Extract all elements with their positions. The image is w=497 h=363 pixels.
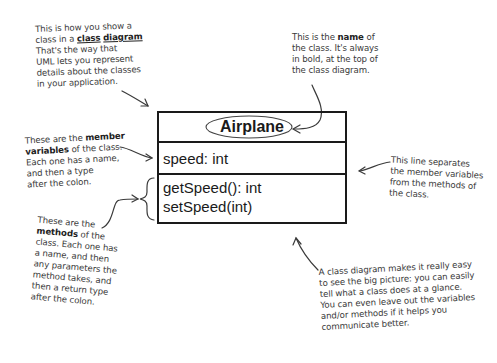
methods-section: getSpeed(): int setSpeed(int) bbox=[159, 175, 345, 222]
note-text: class in a bbox=[35, 33, 77, 44]
note-big-picture: A class diagram makes it really easy to … bbox=[318, 259, 477, 333]
arrow-class-diagram bbox=[122, 91, 148, 106]
attribute-row: speed: int bbox=[163, 150, 228, 167]
note-text: in your application. bbox=[37, 76, 118, 89]
method-row: getSpeed(): int bbox=[163, 179, 261, 196]
note-emphasis: member bbox=[85, 130, 125, 142]
uml-class-box: Airplane speed: int getSpeed(): int setS… bbox=[157, 111, 347, 224]
note-class-diagram: This is how you show a class in a class … bbox=[35, 20, 144, 90]
note-emphasis: class bbox=[77, 33, 101, 44]
note-member-variables: These are the member variables of the cl… bbox=[25, 130, 128, 190]
note-class-name: This is the name of the class. It's alwa… bbox=[292, 32, 378, 76]
note-emphasis: diagram bbox=[103, 31, 143, 42]
note-text: the class. bbox=[389, 188, 429, 200]
note-text: of bbox=[364, 32, 375, 42]
note-text: This is the bbox=[292, 32, 338, 42]
note-separator: This line separates the member variables… bbox=[389, 155, 484, 204]
arrow-separator bbox=[360, 162, 390, 171]
note-text: after the colon. bbox=[27, 176, 92, 189]
note-emphasis: name bbox=[338, 32, 364, 42]
class-name-section: Airplane bbox=[159, 113, 345, 143]
methods-brace bbox=[140, 178, 154, 220]
method-row: setSpeed(int) bbox=[163, 198, 252, 215]
note-text: in bold, at the top of bbox=[292, 54, 378, 64]
note-text: the class. It's always bbox=[292, 43, 378, 53]
note-text: the class diagram. bbox=[292, 65, 370, 75]
note-methods: These are the methods of the class. Each… bbox=[30, 215, 121, 310]
attributes-section: speed: int bbox=[159, 143, 345, 175]
class-name: Airplane bbox=[159, 118, 345, 136]
